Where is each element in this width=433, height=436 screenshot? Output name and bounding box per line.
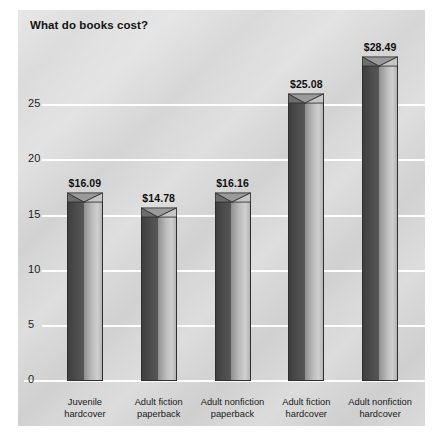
y-axis-tick-label: 20	[28, 152, 41, 165]
chart-panel: What do books cost? 0510152025$16.09Juve…	[18, 10, 425, 426]
y-axis-tick-label: 25	[28, 97, 41, 110]
category-label-line: Adult fiction	[269, 397, 343, 409]
bar[interactable]: $28.49	[362, 56, 398, 381]
category-label-line: paperback	[196, 409, 270, 421]
bar-right-face	[84, 202, 102, 380]
category-label-line: hardcover	[269, 409, 343, 421]
bar-top-cap	[215, 192, 251, 203]
x-axis-category-label: Adult nonfictionpaperback	[196, 397, 270, 420]
plot-area: 0510152025$16.09Juvenilehardcover$14.78A…	[18, 10, 425, 426]
bar-body	[67, 201, 103, 381]
y-axis-tick-label: 0	[28, 373, 34, 386]
bar-body	[215, 201, 251, 381]
bar-top-cap	[288, 93, 324, 104]
category-label-line: Adult nonfiction	[343, 397, 417, 409]
y-axis-tick-label: 5	[28, 318, 34, 331]
bar-right-face	[305, 103, 323, 380]
category-label-line: Adult nonfiction	[196, 397, 270, 409]
y-axis-tick-label: 10	[28, 263, 41, 276]
bar-value-label: $25.08	[290, 78, 323, 90]
bar[interactable]: $16.16	[215, 192, 251, 381]
bar-left-face	[142, 217, 158, 380]
bar-top-cap	[141, 207, 177, 218]
bar-value-label: $16.16	[216, 177, 249, 189]
y-axis-tick-label: 15	[28, 208, 41, 221]
bar-left-face	[68, 202, 84, 380]
bar-right-face	[231, 202, 249, 380]
bar-value-label: $28.49	[364, 41, 397, 53]
x-axis-category-label: Adult fictionhardcover	[269, 397, 343, 420]
bar-left-face	[216, 202, 232, 380]
x-axis-category-label: Juvenilehardcover	[48, 397, 122, 420]
category-label-line: hardcover	[48, 409, 122, 421]
bar-value-label: $16.09	[69, 177, 102, 189]
bar-body	[141, 216, 177, 381]
bar-left-face	[363, 66, 379, 380]
bar-right-face	[379, 66, 397, 380]
category-label-line: hardcover	[343, 409, 417, 421]
bar-left-face	[289, 103, 305, 380]
category-label-line: Juvenile	[48, 397, 122, 409]
x-axis-category-label: Adult nonfictionhardcover	[343, 397, 417, 420]
x-axis-category-label: Adult fictionpaperback	[122, 397, 196, 420]
bar-right-face	[158, 217, 176, 380]
bar-body	[288, 102, 324, 381]
bar[interactable]: $16.09	[67, 192, 103, 381]
bar[interactable]: $25.08	[288, 93, 324, 381]
bar-value-label: $14.78	[142, 192, 175, 204]
category-label-line: Adult fiction	[122, 397, 196, 409]
bar-top-cap	[67, 192, 103, 203]
bar-top-cap	[362, 56, 398, 67]
category-label-line: paperback	[122, 409, 196, 421]
bar[interactable]: $14.78	[141, 207, 177, 381]
bar-body	[362, 65, 398, 381]
chart-screenshot: What do books cost? 0510152025$16.09Juve…	[0, 0, 433, 436]
